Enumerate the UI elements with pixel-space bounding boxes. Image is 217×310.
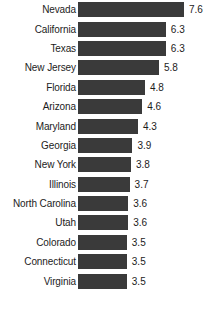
bar bbox=[78, 274, 127, 289]
bar-area: 4.8 bbox=[78, 78, 217, 97]
value-label: 4.8 bbox=[145, 82, 164, 93]
category-label: Texas bbox=[0, 43, 78, 54]
bar-row: Utah3.6 bbox=[0, 213, 217, 232]
bar-area: 3.6 bbox=[78, 213, 217, 232]
category-label: California bbox=[0, 24, 78, 35]
value-label: 6.3 bbox=[166, 24, 185, 35]
bar-row: Connecticut3.5 bbox=[0, 252, 217, 271]
category-label: Nevada bbox=[0, 4, 78, 15]
bar bbox=[78, 138, 132, 153]
bar-row: Nevada7.6 bbox=[0, 0, 217, 19]
category-label: New York bbox=[0, 159, 78, 170]
bar-row: North Carolina3.6 bbox=[0, 194, 217, 213]
value-label: 3.6 bbox=[128, 217, 147, 228]
bar bbox=[78, 80, 145, 95]
bar-row: California6.3 bbox=[0, 19, 217, 38]
bar-area: 3.5 bbox=[78, 252, 217, 271]
bar bbox=[78, 60, 159, 75]
bar-row: New Jersey5.8 bbox=[0, 58, 217, 77]
category-label: Utah bbox=[0, 217, 78, 228]
bar-row: Georgia3.9 bbox=[0, 136, 217, 155]
bar-area: 3.5 bbox=[78, 233, 217, 252]
category-label: New Jersey bbox=[0, 62, 78, 73]
bar bbox=[78, 22, 166, 37]
bar bbox=[78, 235, 127, 250]
bar-area: 3.7 bbox=[78, 175, 217, 194]
value-label: 3.8 bbox=[131, 159, 150, 170]
bar-row: Texas6.3 bbox=[0, 39, 217, 58]
value-label: 3.5 bbox=[127, 276, 146, 287]
bar-area: 6.3 bbox=[78, 39, 217, 58]
horizontal-bar-chart: Nevada7.6California6.3Texas6.3New Jersey… bbox=[0, 0, 217, 310]
bar-area: 4.3 bbox=[78, 116, 217, 135]
bar bbox=[78, 177, 130, 192]
category-label: Colorado bbox=[0, 237, 78, 248]
category-label: Connecticut bbox=[0, 256, 78, 267]
category-label: Virginia bbox=[0, 276, 78, 287]
value-label: 3.6 bbox=[128, 198, 147, 209]
bar-row: Colorado3.5 bbox=[0, 233, 217, 252]
bar bbox=[78, 196, 128, 211]
bar bbox=[78, 119, 138, 134]
bar bbox=[78, 157, 131, 172]
category-label: Florida bbox=[0, 82, 78, 93]
bar-area: 3.5 bbox=[78, 271, 217, 290]
category-label: Arizona bbox=[0, 101, 78, 112]
bar bbox=[78, 2, 184, 17]
bar-row: Florida4.8 bbox=[0, 78, 217, 97]
bar bbox=[78, 215, 128, 230]
bar bbox=[78, 254, 127, 269]
value-label: 6.3 bbox=[166, 43, 185, 54]
bar-area: 4.6 bbox=[78, 97, 217, 116]
value-label: 4.3 bbox=[138, 121, 157, 132]
value-label: 4.6 bbox=[142, 101, 161, 112]
bar-area: 3.6 bbox=[78, 194, 217, 213]
bar-area: 5.8 bbox=[78, 58, 217, 77]
bar bbox=[78, 41, 166, 56]
bar-row: New York3.8 bbox=[0, 155, 217, 174]
bar-row: Maryland4.3 bbox=[0, 116, 217, 135]
bar-row: Virginia3.5 bbox=[0, 271, 217, 290]
value-label: 3.5 bbox=[127, 237, 146, 248]
bar-area: 7.6 bbox=[78, 0, 217, 19]
value-label: 3.5 bbox=[127, 256, 146, 267]
bar bbox=[78, 99, 142, 114]
category-label: Maryland bbox=[0, 121, 78, 132]
value-label: 5.8 bbox=[159, 62, 178, 73]
bar-row: Arizona4.6 bbox=[0, 97, 217, 116]
bar-area: 6.3 bbox=[78, 19, 217, 38]
bar-row: Illinois3.7 bbox=[0, 175, 217, 194]
category-label: Georgia bbox=[0, 140, 78, 151]
bar-area: 3.8 bbox=[78, 155, 217, 174]
bar-area: 3.9 bbox=[78, 136, 217, 155]
value-label: 3.7 bbox=[130, 179, 149, 190]
category-label: Illinois bbox=[0, 179, 78, 190]
value-label: 7.6 bbox=[184, 4, 203, 15]
value-label: 3.9 bbox=[132, 140, 151, 151]
category-label: North Carolina bbox=[0, 198, 78, 209]
